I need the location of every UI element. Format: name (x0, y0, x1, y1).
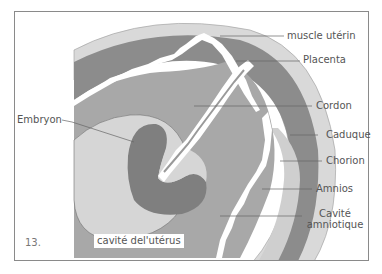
label-caduque: Caduque (326, 129, 371, 140)
uterus-cross-section-illustration (0, 0, 382, 274)
label-embryon: Embryon (17, 114, 62, 125)
label-placenta: Placenta (303, 54, 346, 65)
label-cavite-line1: Cavité (319, 208, 351, 219)
label-cavite-uterus: cavité del'utérus (94, 234, 184, 248)
figure-number: 13. (25, 237, 41, 248)
label-cordon: Cordon (316, 100, 352, 111)
label-cavite-line2: amniotique (307, 219, 364, 230)
label-cavite-amniotique: Cavité amniotique (305, 208, 365, 230)
label-amnios: Amnios (316, 183, 353, 194)
label-muscle-uterin: muscle utérin (287, 30, 356, 41)
label-chorion: Chorion (326, 155, 365, 166)
